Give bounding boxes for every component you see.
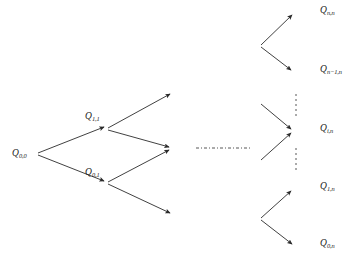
node-label-q11: Q1,1 bbox=[85, 112, 100, 122]
node-label-q1n: Q1,n bbox=[320, 182, 335, 192]
node-label-base: Q bbox=[85, 111, 92, 121]
diagram-arrow bbox=[261, 15, 292, 45]
node-label-subscript: n−1,n bbox=[327, 68, 342, 75]
diagram-arrow bbox=[108, 150, 169, 182]
node-label-subscript: i,n bbox=[327, 127, 333, 134]
node-label-subscript: 0,0 bbox=[19, 152, 27, 159]
node-label-base: Q bbox=[12, 148, 19, 158]
diagram-arrow bbox=[261, 191, 291, 218]
node-label-subscript: 0,n bbox=[327, 242, 335, 249]
diagram-svg bbox=[0, 0, 362, 266]
diagram-arrow bbox=[38, 127, 104, 153]
node-label-qn1n: Qn−1,n bbox=[320, 65, 342, 75]
node-label-subscript: 1,n bbox=[327, 185, 335, 192]
node-label-qin: Qi,n bbox=[320, 124, 333, 134]
node-label-q0n: Q0,n bbox=[320, 239, 335, 249]
diagram-arrow bbox=[108, 94, 170, 128]
node-label-base: Q bbox=[320, 238, 327, 248]
edge-layer bbox=[38, 15, 292, 244]
diagram-arrow bbox=[261, 104, 291, 129]
node-label-base: Q bbox=[320, 64, 327, 74]
diagram-arrow bbox=[108, 130, 169, 147]
node-label-subscript: 1,1 bbox=[92, 115, 100, 122]
node-label-base: Q bbox=[320, 181, 327, 191]
diagram-arrow bbox=[261, 47, 291, 70]
diagram-canvas: Q0,0Q1,1Q0,1Qn,nQn−1,nQi,nQ1,nQ0,n bbox=[0, 0, 362, 266]
diagram-arrow bbox=[261, 220, 292, 244]
node-label-subscript: 0,1 bbox=[92, 171, 100, 178]
node-label-subscript: n,n bbox=[327, 9, 335, 16]
node-label-qnn: Qn,n bbox=[320, 6, 335, 16]
node-label-base: Q bbox=[85, 167, 92, 177]
diagram-arrow bbox=[108, 184, 170, 213]
dash-connector-layer bbox=[196, 94, 296, 172]
node-label-q01: Q0,1 bbox=[85, 168, 100, 178]
diagram-arrow bbox=[261, 133, 291, 160]
node-label-base: Q bbox=[320, 5, 327, 15]
node-label-base: Q bbox=[320, 123, 327, 133]
node-label-q00: Q0,0 bbox=[12, 149, 27, 159]
